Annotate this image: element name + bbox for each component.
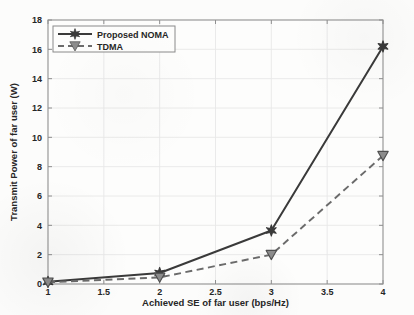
y-tick-label: 6: [37, 191, 42, 201]
x-axis-title: Achieved SE of far user (bps/Hz): [142, 297, 289, 308]
y-axis-tick-labels: 024681012141618: [32, 15, 42, 289]
x-tick-label: 3: [269, 287, 274, 297]
y-tick-label: 12: [32, 103, 42, 113]
y-tick-label: 18: [32, 15, 42, 25]
x-axis-tick-labels: 11.522.533.54: [45, 287, 385, 297]
y-tick-label: 14: [32, 74, 42, 84]
y-axis-title: Transmit Power of far user (W): [8, 83, 19, 221]
y-tick-label: 10: [32, 133, 42, 143]
chart-figure: 024681012141618 11.522.533.54 Achieved S…: [0, 0, 414, 315]
x-tick-label: 2: [157, 287, 162, 297]
y-tick-label: 16: [32, 45, 42, 55]
legend-item-proposed-noma[interactable]: Proposed NOMA: [58, 29, 169, 40]
x-tick-label: 1.5: [98, 287, 111, 297]
line-chart: 024681012141618 11.522.533.54 Achieved S…: [0, 0, 414, 315]
x-tick-label: 1: [45, 287, 50, 297]
x-tick-label: 4: [380, 287, 385, 297]
legend-label-tdma: TDMA: [97, 42, 123, 52]
chart-legend[interactable]: Proposed NOMA TDMA: [53, 26, 175, 52]
y-tick-label: 8: [37, 162, 42, 172]
y-tick-label: 2: [37, 250, 42, 260]
y-tick-label: 0: [37, 279, 42, 289]
x-tick-label: 3.5: [321, 287, 334, 297]
y-tick-label: 4: [37, 221, 42, 231]
x-tick-label: 2.5: [209, 287, 222, 297]
legend-label-noma: Proposed NOMA: [97, 30, 169, 40]
